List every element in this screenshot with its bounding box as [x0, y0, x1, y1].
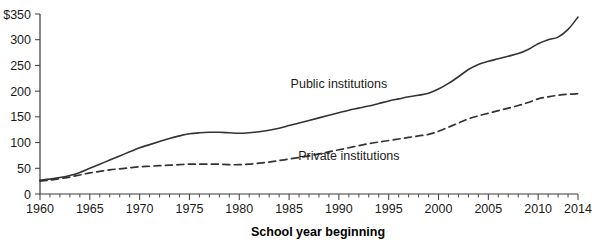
chart-container: 050100150200250300$350 19601965197019751…	[0, 0, 596, 242]
y-axis-tick-label: 100	[10, 136, 31, 150]
y-axis-tick-label: 300	[10, 33, 31, 47]
x-axis-tick-label: 1970	[126, 202, 154, 216]
x-axis-tick-label: 1980	[225, 202, 253, 216]
series-annotations: Public institutionsPrivate institutions	[291, 77, 400, 163]
x-axis-title: School year beginning	[251, 225, 385, 239]
series-label-private-institutions: Private institutions	[298, 149, 399, 163]
axes	[40, 14, 578, 194]
x-axis-tick-label: 2005	[474, 202, 502, 216]
x-axis-tick-label: 1965	[76, 202, 104, 216]
x-axis-tick-label: 1985	[275, 202, 303, 216]
x-axis-tick-label: 1995	[375, 202, 403, 216]
y-axis-tick-label: 50	[17, 162, 31, 176]
x-axis-tick-label: 2000	[425, 202, 453, 216]
y-axis-tick-label: 200	[10, 85, 31, 99]
x-axis-tick-label: 2014	[564, 202, 592, 216]
y-axis-tick-label: 250	[10, 59, 31, 73]
x-axis-tick-label: 1960	[26, 202, 54, 216]
y-axis-tick-label: 150	[10, 110, 31, 124]
y-axis-tick-labels: 050100150200250300$350	[3, 8, 31, 202]
x-axis-tick-label: 1975	[176, 202, 204, 216]
x-axis-tick-label: 2010	[524, 202, 552, 216]
y-axis-tick-label: 0	[24, 188, 31, 202]
series-line-private-institutions	[40, 94, 578, 181]
x-axis-tick-label: 1990	[325, 202, 353, 216]
x-axis-tick-labels: 1960196519701975198019851990199520002005…	[26, 202, 592, 216]
line-chart: 050100150200250300$350 19601965197019751…	[0, 0, 596, 242]
y-axis-tick-label: $350	[3, 8, 31, 22]
series-label-public-institutions: Public institutions	[291, 77, 388, 91]
tick-marks	[35, 14, 578, 200]
